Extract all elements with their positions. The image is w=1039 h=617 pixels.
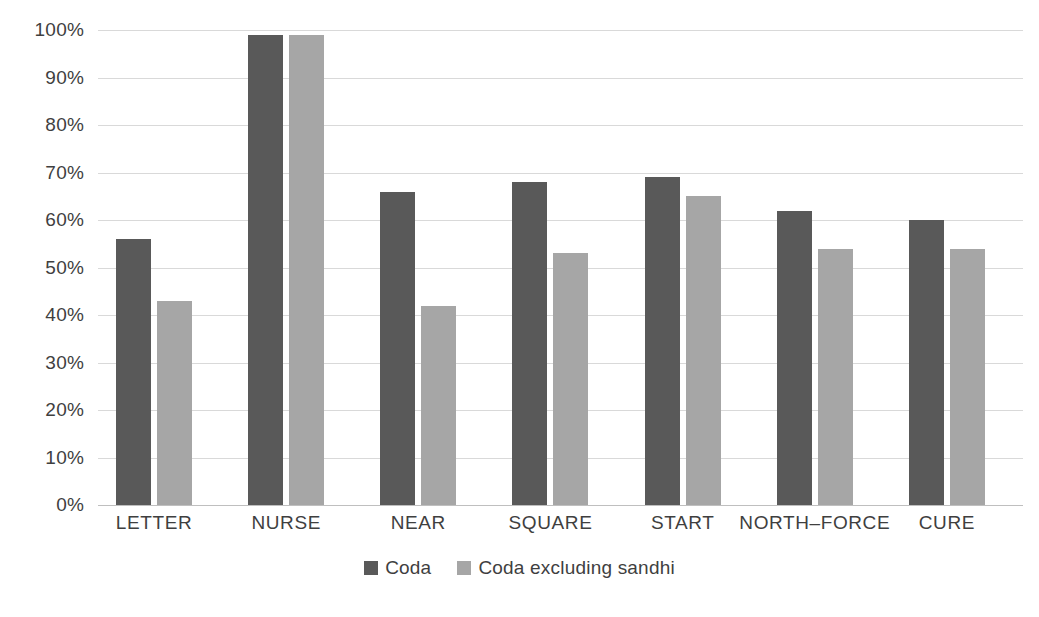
bar [289, 35, 324, 505]
y-axis-tick-label: 60% [45, 209, 84, 231]
bar-group [627, 30, 759, 505]
bar [248, 35, 283, 505]
y-axis-tick-label: 20% [45, 399, 84, 421]
y-axis-tick-label: 70% [45, 162, 84, 184]
x-axis-tick-label: NURSE [251, 512, 321, 534]
bar [645, 177, 680, 505]
bar [116, 239, 151, 505]
bar [157, 301, 192, 505]
axis-baseline [98, 505, 1023, 506]
legend-item: Coda excluding sandhi [457, 557, 674, 579]
bar-group [891, 30, 1023, 505]
bar [380, 192, 415, 506]
bar-chart: 0%10%20%30%40%50%60%70%80%90%100% LETTER… [0, 0, 1039, 617]
bar [950, 249, 985, 506]
bar-group [98, 30, 230, 505]
bar-group [759, 30, 891, 505]
bar [686, 196, 721, 505]
y-axis-tick-label: 100% [35, 19, 84, 41]
y-axis-tick-label: 90% [45, 67, 84, 89]
y-axis: 0%10%20%30%40%50%60%70%80%90%100% [0, 0, 98, 535]
x-axis: LETTERNURSENEARSQUARESTARTNORTH–FORCECUR… [98, 512, 1023, 546]
legend-item: Coda [364, 557, 431, 579]
bar [909, 220, 944, 505]
y-axis-tick-label: 0% [56, 494, 84, 516]
bar [553, 253, 588, 505]
bar [777, 211, 812, 506]
y-axis-tick-label: 80% [45, 114, 84, 136]
legend-swatch-icon [364, 561, 378, 575]
bar [512, 182, 547, 505]
y-axis-tick-label: 50% [45, 257, 84, 279]
x-axis-tick-label: NORTH–FORCE [739, 512, 890, 534]
chart-legend: CodaCoda excluding sandhi [0, 557, 1039, 579]
bar-group [494, 30, 626, 505]
bar-group [230, 30, 362, 505]
x-axis-tick-label: CURE [919, 512, 975, 534]
legend-label: Coda [385, 557, 431, 579]
x-axis-tick-label: LETTER [116, 512, 192, 534]
x-axis-tick-label: START [651, 512, 715, 534]
y-axis-tick-label: 10% [45, 447, 84, 469]
bar-group [362, 30, 494, 505]
x-axis-tick-label: SQUARE [509, 512, 593, 534]
bar [421, 306, 456, 506]
legend-swatch-icon [457, 561, 471, 575]
bar [818, 249, 853, 506]
x-axis-tick-label: NEAR [391, 512, 446, 534]
legend-label: Coda excluding sandhi [478, 557, 674, 579]
y-axis-tick-label: 30% [45, 352, 84, 374]
y-axis-tick-label: 40% [45, 304, 84, 326]
plot-area [98, 30, 1023, 505]
